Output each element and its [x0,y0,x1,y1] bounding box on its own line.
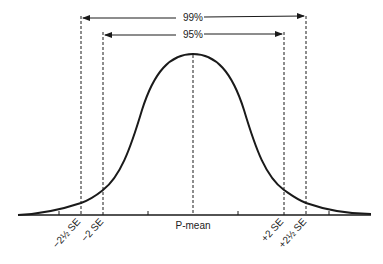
label-minus-2-5-se: −2½ SE [50,216,82,250]
bell-curve [18,54,371,215]
label-minus-2-se: −2 SE [79,216,106,244]
dashed-guides [81,16,306,215]
interval-99-label: 99% [183,12,203,23]
label-p-mean: P-mean [175,220,210,231]
interval-95-label: 95% [183,29,203,40]
normal-curve-diagram: 99% 95% −2½ SE −2 SE P-mean +2 SE +2½ SE [0,0,383,264]
interval-95-arrow: 95% [105,29,282,40]
interval-99-arrow: 99% [83,12,304,23]
